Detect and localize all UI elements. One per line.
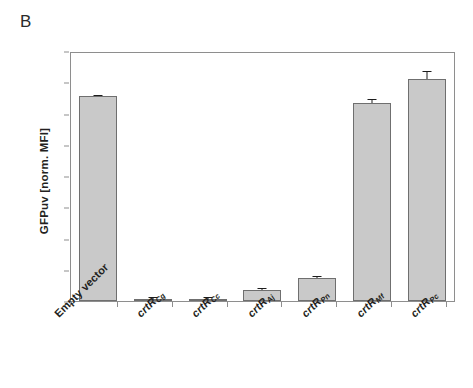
y-axis-tick-mark xyxy=(64,114,69,115)
bar-series xyxy=(71,53,454,301)
x-axis-tick-mark xyxy=(446,302,447,307)
y-axis-tick-mark xyxy=(64,52,69,53)
x-axis-tick-mark xyxy=(70,302,71,307)
bar xyxy=(353,103,391,301)
plot-area xyxy=(70,52,455,302)
x-axis-tick-mark xyxy=(172,302,173,307)
y-axis-tick-mark xyxy=(64,177,69,178)
x-axis-tick-mark xyxy=(227,302,228,307)
x-axis-tick-mark xyxy=(281,302,282,307)
y-axis-tick-mark xyxy=(64,83,69,84)
x-axis-tick-mark xyxy=(117,302,118,307)
bar-slot xyxy=(134,53,172,301)
y-axis-tick-mark xyxy=(64,208,69,209)
bar-slot xyxy=(243,53,281,301)
x-axis-tick-mark xyxy=(336,302,337,307)
x-axis-tick-mark xyxy=(391,302,392,307)
bar-slot xyxy=(298,53,336,301)
figure-panel-b: B GFPuv [norm. MFI] 1.61.41.21.00.80.60.… xyxy=(0,0,473,388)
bar-slot xyxy=(353,53,391,301)
y-axis-tick-mark xyxy=(64,145,69,146)
y-axis-tick-mark xyxy=(64,239,69,240)
y-axis-tick-mark xyxy=(64,270,69,271)
bar-slot xyxy=(408,53,446,301)
bar-slot xyxy=(189,53,227,301)
bar xyxy=(408,79,446,301)
